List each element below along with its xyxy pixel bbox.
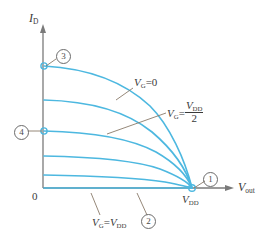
callout-3: 3: [56, 49, 71, 64]
leader-vg-vdd: [91, 193, 100, 215]
y-axis-label: ID: [29, 12, 38, 26]
annotation-vg-zero-var: V: [134, 76, 141, 88]
annotation-vg-half-fraction: VDD2: [185, 100, 204, 125]
callout-4: 4: [14, 125, 29, 140]
curve-vg-0: [44, 66, 192, 188]
x-axis-label: Vout: [238, 181, 255, 195]
origin-label: 0: [32, 191, 38, 202]
annotation-vg-vdd: VG=VDD: [92, 217, 126, 230]
x-axis-label-sub: out: [245, 186, 255, 195]
curve-vg-seveneighth: [44, 175, 192, 188]
annotation-vg-half-var: V: [167, 107, 174, 119]
iv-characteristic-figure: ID Vout 0 VDD VG=0 VG=VDD2 VG=VDD 1 2 3 …: [0, 0, 265, 242]
annotation-vg-vdd-sub2: DD: [117, 222, 127, 229]
fraction-denominator: 2: [185, 113, 204, 125]
annotation-vg-zero-eq: =0: [146, 76, 158, 88]
figure-svg: [0, 0, 265, 242]
y-axis-arrow: [40, 24, 46, 33]
leader-vg-half: [107, 113, 166, 134]
x-tick-label-sub: DD: [189, 199, 199, 206]
annotation-vg-half: VG=VDD2: [167, 100, 203, 125]
x-tick-label-var: V: [182, 193, 189, 205]
x-axis-arrow: [225, 185, 234, 191]
fraction-numerator-sub: DD: [193, 105, 203, 112]
callout-markers: [41, 63, 195, 191]
x-tick-label-vdd: VDD: [182, 194, 199, 207]
axes-group: [40, 24, 234, 191]
leader-3: [46, 59, 56, 66]
callout-1: 1: [203, 172, 218, 187]
curve-family: [44, 66, 192, 188]
annotation-vg-vdd-var2: V: [110, 216, 117, 228]
leader-2: [137, 193, 147, 215]
annotation-vg-vdd-var: V: [92, 216, 99, 228]
fraction-numerator-var: V: [186, 99, 193, 111]
curve-vg-half: [44, 131, 192, 188]
leader-vg-0: [116, 88, 133, 100]
annotation-vg-zero: VG=0: [134, 77, 157, 90]
callout-2: 2: [141, 214, 156, 229]
y-axis-label-sub: D: [33, 17, 38, 26]
